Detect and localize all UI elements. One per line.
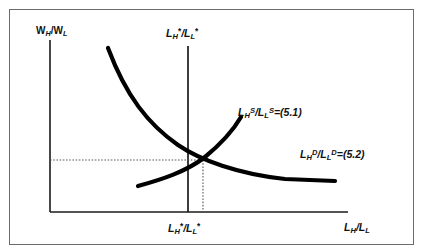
- equilibrium-x-label: LH*/LL*: [168, 222, 200, 235]
- vertical-line-top-label: LH*/LL*: [166, 27, 198, 40]
- figure-container: WH/WL LH*/LL* LHS/LLS=(5.1) LHD/LLD=(5.2…: [0, 0, 423, 252]
- x-axis-label: LH/LL: [344, 222, 370, 234]
- y-axis-label: WH/WL: [36, 26, 67, 37]
- plot-canvas: [0, 0, 423, 252]
- relative-demand-curve-label: LHD/LLD=(5.2): [300, 149, 364, 161]
- relative-supply-curve-label: LHS/LLS=(5.1): [238, 107, 302, 119]
